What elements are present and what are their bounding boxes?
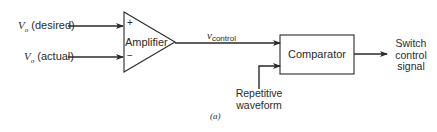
repetitive-waveform-arrow: [259, 66, 280, 89]
desired-input-label: Vo (desired): [18, 19, 75, 32]
voltage-symbol: V: [24, 50, 31, 62]
comparator-label: Comparator: [280, 48, 354, 60]
amplifier-label: Amplifier: [125, 36, 168, 48]
repetitive-line1: Repetitive: [234, 88, 284, 100]
actual-text: (actual): [37, 50, 74, 62]
plus-sign: +: [127, 17, 133, 28]
actual-input-label: Vo (actual): [24, 50, 74, 63]
figure-caption: (a): [210, 112, 221, 122]
output-line1: Switch: [388, 38, 434, 50]
switch-control-signal-label: Switch control signal: [388, 38, 434, 73]
control-subscript: control: [212, 34, 236, 43]
block-diagram: Vo (desired) Vo (actual) + − Amplifier v…: [0, 0, 437, 132]
voltage-subscript: o: [31, 57, 35, 65]
control-signal-label: vcontrol: [207, 29, 236, 42]
voltage-subscript: o: [25, 26, 29, 34]
repetitive-line2: waveform: [234, 100, 284, 112]
desired-text: (desired): [31, 19, 74, 31]
voltage-symbol: V: [18, 19, 25, 31]
repetitive-waveform-label: Repetitive waveform: [234, 88, 284, 111]
output-line3: signal: [388, 61, 434, 73]
minus-sign: −: [127, 50, 133, 61]
